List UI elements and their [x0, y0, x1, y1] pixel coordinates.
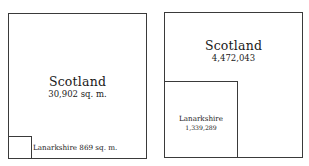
lanarkshire-population-value: 1,339,289	[164, 124, 238, 131]
lanarkshire-area-square	[8, 136, 32, 159]
scotland-area-title: Scotland	[8, 74, 147, 89]
scotland-population-title: Scotland	[164, 38, 303, 53]
lanarkshire-area-label: Lanarkshire 869 sq. m.	[33, 143, 117, 152]
lanarkshire-population-title: Lanarkshire	[164, 114, 238, 123]
scotland-population-value: 4,472,043	[164, 53, 303, 63]
scotland-area-value: 30,902 sq. m.	[8, 89, 147, 99]
